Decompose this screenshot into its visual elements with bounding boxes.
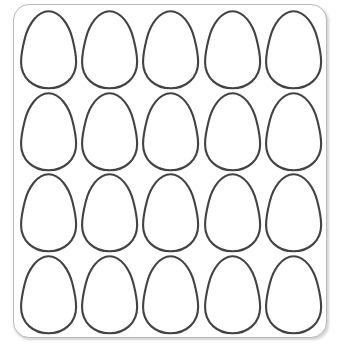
egg-outline-icon — [79, 172, 140, 254]
egg-r4c3[interactable] — [140, 254, 201, 336]
egg-r1c3[interactable] — [140, 9, 201, 91]
egg-outline-icon — [202, 9, 263, 91]
egg-outline-icon — [202, 254, 263, 336]
egg-r4c2[interactable] — [79, 254, 140, 336]
egg-r3c2[interactable] — [79, 172, 140, 254]
egg-r1c2[interactable] — [79, 9, 140, 91]
egg-outline-icon — [263, 172, 324, 254]
egg-outline-icon — [79, 91, 140, 173]
egg-outline-icon — [140, 172, 201, 254]
egg-r1c4[interactable] — [202, 9, 263, 91]
egg-grid — [14, 5, 328, 339]
egg-r2c4[interactable] — [202, 91, 263, 173]
egg-outline-icon — [18, 254, 79, 336]
egg-r3c1[interactable] — [18, 172, 79, 254]
egg-outline-icon — [18, 91, 79, 173]
page-title: Egg Outline Template Sheet — [0, 0, 1, 1]
egg-outline-icon — [79, 254, 140, 336]
egg-outline-icon — [18, 9, 79, 91]
egg-r2c5[interactable] — [263, 91, 324, 173]
egg-r2c2[interactable] — [79, 91, 140, 173]
egg-outline-icon — [140, 91, 201, 173]
egg-r3c3[interactable] — [140, 172, 201, 254]
egg-outline-icon — [263, 91, 324, 173]
egg-template-sheet — [13, 4, 327, 338]
egg-outline-icon — [18, 172, 79, 254]
egg-r2c3[interactable] — [140, 91, 201, 173]
egg-r4c5[interactable] — [263, 254, 324, 336]
egg-r1c5[interactable] — [263, 9, 324, 91]
egg-outline-icon — [263, 9, 324, 91]
egg-r2c1[interactable] — [18, 91, 79, 173]
egg-outline-icon — [202, 91, 263, 173]
egg-r4c1[interactable] — [18, 254, 79, 336]
egg-outline-icon — [202, 172, 263, 254]
egg-r1c1[interactable] — [18, 9, 79, 91]
egg-r3c4[interactable] — [202, 172, 263, 254]
egg-r3c5[interactable] — [263, 172, 324, 254]
canvas-stage: Egg Outline Template Sheet — [0, 0, 339, 355]
egg-outline-icon — [79, 9, 140, 91]
egg-outline-icon — [140, 9, 201, 91]
egg-outline-icon — [140, 254, 201, 336]
egg-r4c4[interactable] — [202, 254, 263, 336]
egg-outline-icon — [263, 254, 324, 336]
